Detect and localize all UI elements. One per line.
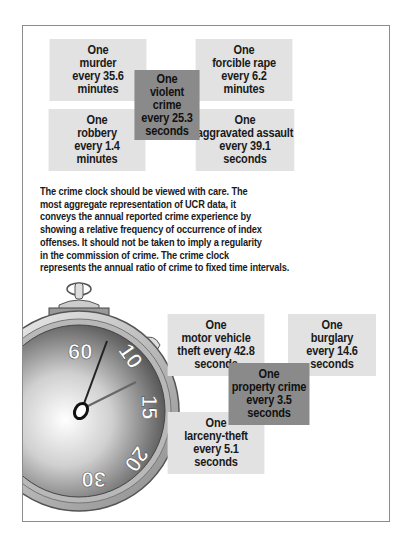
paragraph-line: represents the annual ratio of crime to … [40,261,339,274]
property-crime-total-box: One property crime every 3.5 seconds [229,363,310,425]
box-line: crime [153,99,181,112]
box-line: One [157,73,178,86]
murder-box: One murder every 35.6 minutes [50,39,147,101]
dial-label-15: 15 [137,395,162,419]
paragraph-line: most aggregate representation of UCR dat… [40,198,339,211]
paragraph-line: in the commission of crime. The crime cl… [40,249,339,262]
crime-clock-frame: One murder every 35.6 minutes One forcib… [22,25,390,522]
forcible-rape-box: One forcible rape every 6.2 minutes [196,39,293,101]
box-line: seconds [223,153,266,166]
paragraph-line: The crime clock should be viewed with ca… [40,185,339,198]
violent-crime-total-box: One violent crime every 25.3 seconds [134,70,199,140]
robbery-box: One robbery every 1.4 minutes [49,109,146,171]
dial-label-30: 30 [82,467,106,492]
paragraph-line: showing a relative frequency of occurren… [40,223,339,236]
box-line: minutes [224,83,265,96]
box-line: violent [150,86,184,99]
box-line: seconds [247,407,290,420]
paragraph-line: conveys the annual reported crime experi… [40,210,339,223]
box-line: minutes [78,83,119,96]
box-line: seconds [194,456,237,469]
dial-label-60: 60 [68,339,92,364]
crime-clock-description: The crime clock should be viewed with ca… [40,185,380,274]
aggravated-assault-box: One aggravated assault every 39.1 second… [196,109,295,171]
paragraph-line: offenses. It should not be taken to impl… [40,236,339,249]
box-line: seconds [145,125,188,138]
box-line: minutes [77,153,118,166]
box-line: every 25.3 [141,112,192,125]
box-line: seconds [310,358,353,371]
